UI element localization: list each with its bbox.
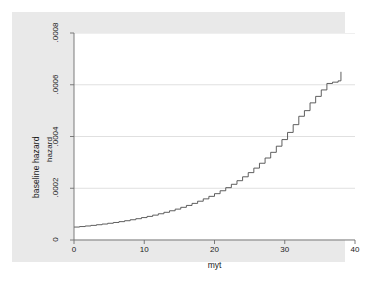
figure-canvas: baseline hazard hazard myt 0.0002.0004.0… [0,0,365,281]
graph-region: baseline hazard hazard myt 0.0002.0004.0… [12,12,345,262]
x-tick-label: 40 [343,245,365,254]
tick-marks [70,33,355,244]
axis-spines [12,12,345,262]
